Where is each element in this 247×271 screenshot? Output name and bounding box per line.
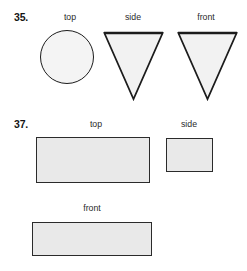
- caption-35-front: front: [189, 11, 224, 22]
- shape-37-top-rectangle: [36, 137, 150, 183]
- triangle-body: [104, 33, 162, 99]
- problem-number-37: 37.: [14, 118, 28, 130]
- shape-35-top-circle: [40, 30, 94, 84]
- caption-37-front: front: [75, 202, 110, 213]
- caption-37-side: side: [172, 118, 205, 129]
- shape-37-front-rectangle: [32, 222, 152, 256]
- shape-35-front-triangle-down: [177, 31, 238, 101]
- caption-35-side: side: [116, 11, 149, 22]
- triangle-body: [178, 33, 236, 99]
- caption-35-top: top: [53, 11, 86, 22]
- shape-37-side-rectangle: [166, 138, 213, 172]
- worksheet-figure-panel: 35. top side front 37. top side front: [0, 0, 247, 271]
- problem-number-35: 35.: [14, 11, 28, 23]
- caption-37-top: top: [79, 118, 112, 129]
- shape-35-side-triangle-down: [103, 31, 164, 101]
